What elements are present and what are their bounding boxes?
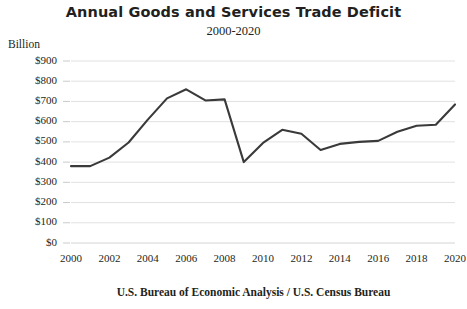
gridlines (71, 61, 455, 243)
y-axis-tick-label: $400 (35, 155, 58, 167)
y-axis-tick-label: $600 (35, 114, 58, 126)
x-axis-tick-label: 2020 (444, 252, 467, 264)
x-axis-labels: 2000200220042006200820102012201420162018… (60, 252, 467, 264)
x-axis-tick-label: 2006 (175, 252, 198, 264)
x-axis-tick-label: 2004 (137, 252, 160, 264)
source-attribution: U.S. Bureau of Economic Analysis / U.S. … (0, 286, 467, 298)
y-axis-tick-label: $800 (35, 74, 58, 86)
x-axis-tick-label: 2018 (406, 252, 429, 264)
y-axis-tick-label: $0 (46, 236, 58, 248)
x-axis-tick-label: 2016 (367, 252, 390, 264)
trade-deficit-line (71, 89, 455, 166)
x-axis-tick-label: 2012 (290, 252, 312, 264)
y-axis-tick-label: $700 (35, 94, 58, 106)
x-axis-tick-label: 2014 (329, 252, 352, 264)
y-axis-tick-label: $100 (35, 215, 58, 227)
x-axis-tick-label: 2002 (98, 252, 120, 264)
y-axis-labels: $0$100$200$300$400$500$600$700$800$900 (35, 54, 58, 248)
line-chart-plot: $0$100$200$300$400$500$600$700$800$900 2… (0, 0, 467, 309)
y-axis-tick-label: $500 (35, 134, 58, 146)
x-axis-tick-label: 2000 (60, 252, 83, 264)
y-axis-tick-label: $200 (35, 195, 58, 207)
y-axis-tick-label: $300 (35, 175, 58, 187)
x-axis-tick-label: 2008 (214, 252, 237, 264)
chart-container: Annual Goods and Services Trade Deficit … (0, 0, 467, 309)
x-axis-tick-label: 2010 (252, 252, 275, 264)
y-axis-tick-marks (63, 61, 70, 243)
y-axis-tick-label: $900 (35, 54, 58, 66)
